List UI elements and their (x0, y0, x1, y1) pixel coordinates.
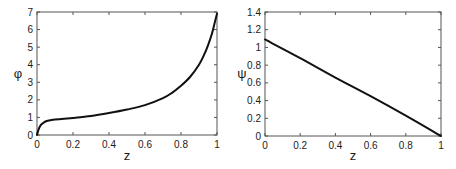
y-tick-label: 0.4 (247, 95, 261, 106)
psi-chart-panel: 00.20.40.60.8100.20.40.60.811.21.4zψ (228, 0, 456, 169)
phi-chart-panel: 00.20.40.60.8101234567zφ (0, 0, 228, 169)
x-tick-label: 1 (438, 140, 444, 151)
x-tick-label: 0.6 (364, 140, 378, 151)
y-tick-label: 7 (27, 7, 33, 18)
x-tick-label: 0.4 (328, 140, 342, 151)
y-tick-label: 1.4 (247, 7, 261, 18)
x-tick-label: 0 (34, 139, 40, 150)
y-tick-label: 2 (27, 94, 33, 105)
plot-frame (265, 12, 441, 136)
x-tick-label: 0 (262, 140, 268, 151)
x-tick-label: 0.8 (174, 139, 188, 150)
y-tick-label: 0.6 (247, 77, 261, 88)
psi-curve (265, 39, 441, 136)
y-tick-label: 0 (27, 130, 33, 141)
x-tick-label: 0.2 (66, 139, 80, 150)
y-tick-label: 0.8 (247, 60, 261, 71)
y-tick-label: 3 (27, 77, 33, 88)
y-tick-label: 1 (255, 42, 261, 53)
plot-frame (37, 12, 217, 135)
y-axis-label: φ (14, 66, 22, 81)
y-tick-label: 4 (27, 59, 33, 70)
y-tick-label: 1 (27, 112, 33, 123)
phi-curve (37, 14, 217, 135)
y-tick-label: 0.2 (247, 113, 261, 124)
x-axis-label: z (350, 148, 357, 163)
phi-chart: 00.20.40.60.8101234567zφ (0, 0, 228, 169)
psi-chart: 00.20.40.60.8100.20.40.60.811.21.4zψ (228, 0, 456, 169)
y-tick-label: 0 (255, 131, 261, 142)
y-tick-label: 6 (27, 24, 33, 35)
x-tick-label: 0.6 (138, 139, 152, 150)
y-tick-label: 5 (27, 42, 33, 53)
x-tick-label: 0.2 (293, 140, 307, 151)
y-axis-label: ψ (237, 66, 246, 81)
x-tick-label: 0.8 (399, 140, 413, 151)
x-axis-label: z (124, 148, 131, 163)
y-tick-label: 1.2 (247, 24, 261, 35)
x-tick-label: 0.4 (102, 139, 116, 150)
x-tick-label: 1 (214, 139, 220, 150)
